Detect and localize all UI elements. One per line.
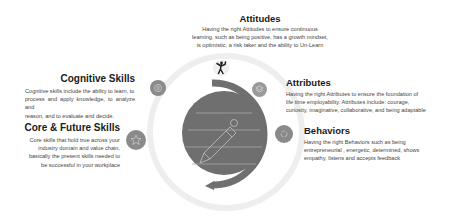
cognitive-description: Cognitive skills include the ability to …	[25, 87, 135, 120]
attributes-description: Having the right Attributes to ensure th…	[286, 90, 450, 115]
core-description: Core skills that hold true across your i…	[20, 136, 120, 169]
cognitive-title: Cognitive Skills	[25, 73, 135, 84]
attributes-block: Attributes Having the right Attributes t…	[286, 77, 450, 115]
star-icon	[130, 134, 142, 146]
attributes-icon-badge	[252, 82, 267, 97]
arc-arrow	[205, 181, 214, 190]
core-title: Core & Future Skills	[20, 122, 120, 133]
core-block: Core & Future Skills Core skills that ho…	[20, 122, 120, 169]
brain-icon	[153, 83, 163, 93]
behaviors-block: Behaviors Having the right Behaviors suc…	[304, 125, 449, 163]
attitudes-description: Having the right Attitudes to ensure con…	[175, 25, 345, 50]
attitudes-icon-badge	[213, 60, 229, 76]
behaviors-title: Behaviors	[304, 125, 449, 136]
behaviors-description: Having the right Behaviors such as being…	[304, 138, 449, 163]
cognitive-block: Cognitive Skills Cognitive skills includ…	[25, 73, 135, 120]
attitudes-block: Attitudes Having the right Attitudes to …	[175, 13, 345, 50]
refresh-cycle-icon	[279, 129, 289, 139]
attributes-title: Attributes	[286, 77, 450, 88]
cognitive-icon-badge	[150, 80, 166, 96]
behaviors-icon-badge	[275, 125, 293, 143]
attitudes-title: Attitudes	[175, 13, 345, 24]
layers-icon	[255, 85, 264, 94]
core-icon-badge	[126, 130, 146, 150]
person-celebrating-icon	[215, 61, 227, 75]
